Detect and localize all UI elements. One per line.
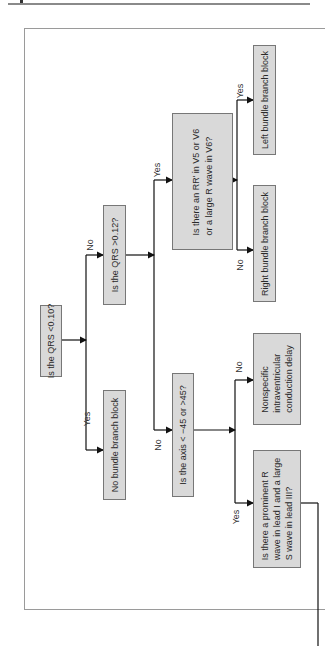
rr-line-2: or a large R wave in V6? (203, 128, 216, 235)
node-right-bundle-branch-block: Right bundle branch block (253, 185, 276, 302)
node-no-bundle-branch-block: No bundle branch block (103, 390, 126, 500)
node-prominent-r: Is there a prominent R wave in lead I an… (253, 450, 301, 568)
edge-label-no: No (234, 361, 244, 373)
prom-line-1: Is there a prominent R (259, 458, 271, 561)
prom-line-3: S wave in lead III? (283, 458, 295, 561)
edge-label-no: No (235, 259, 245, 271)
node-rr-prime: Is there an RR' in V5 or V6 or a large R… (172, 113, 233, 250)
node-nonspecific-ivcd: Nonspecific intraventricular conduction … (253, 333, 301, 425)
edge-label-no: No (153, 439, 163, 451)
edge-label-yes: Yes (231, 510, 241, 525)
node-qrs-gt-012: Is the QRS >0.12? (103, 205, 126, 305)
edge-label-yes: Yes (235, 84, 245, 99)
node-left-bundle-branch-block: Left bundle branch block (253, 45, 276, 155)
edge-label-no: No (85, 239, 95, 251)
nonspec-line-3: conduction delay (283, 345, 295, 413)
nonspec-line-1: Nonspecific (259, 345, 271, 413)
edge-label-yes: Yes (152, 163, 162, 178)
edge-label-yes: Yes (82, 412, 92, 427)
rr-line-1: Is there an RR' in V5 or V6 (190, 128, 203, 235)
prom-line-2: wave in lead I and a large (271, 458, 283, 561)
node-qrs-lt-010: Is the QRS <0.10? (40, 305, 62, 377)
node-axis: Is the axis < −45 or >45? (172, 373, 194, 497)
nonspec-line-2: intraventricular (271, 345, 283, 413)
